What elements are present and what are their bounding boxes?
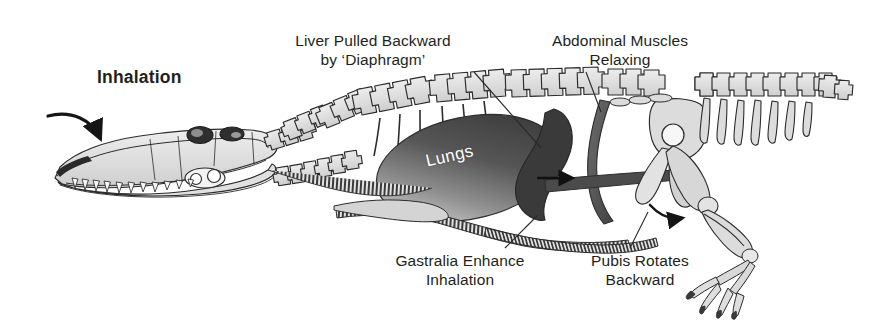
label-pubis-rotates-backward: Pubis Rotates Backward bbox=[560, 251, 720, 289]
gastralia-leader bbox=[505, 215, 538, 248]
pubis-rotation-arrow bbox=[650, 205, 682, 218]
liver-leader bbox=[474, 72, 541, 148]
inhalation-airflow-arrow bbox=[48, 114, 100, 138]
pubis-leader bbox=[630, 212, 648, 248]
label-liver-pulled-backward: Liver Pulled Backward by ‘Diaphragm’ bbox=[268, 31, 478, 69]
inhalation-diagram: Inhalation Liver Pulled Backward by ‘Dia… bbox=[0, 0, 881, 321]
label-abdominal-muscles-relaxing: Abdominal Muscles Relaxing bbox=[520, 31, 720, 69]
page-title: Inhalation bbox=[97, 68, 227, 87]
label-gastralia-enhance-inhalation: Gastralia Enhance Inhalation bbox=[355, 251, 565, 289]
abdominal-leader bbox=[586, 72, 601, 112]
